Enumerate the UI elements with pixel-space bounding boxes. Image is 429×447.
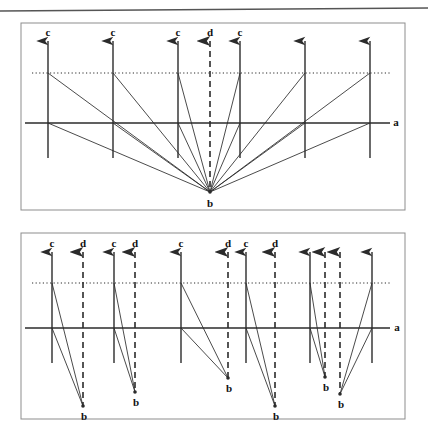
convergence-label-b: b <box>338 398 344 410</box>
vertical-label-d: d <box>225 237 231 249</box>
vertical-label-c: c <box>46 26 51 38</box>
vertical-label-c: c <box>179 237 184 249</box>
vertical-label-c: c <box>238 26 243 38</box>
vertical-label-d: d <box>272 237 278 249</box>
convergence-label-b: b <box>81 410 87 422</box>
ray-line <box>48 73 210 192</box>
convergence-point <box>133 390 137 394</box>
ray-line <box>310 328 325 377</box>
ray-line <box>113 73 210 192</box>
vertical-label-d: d <box>132 237 138 249</box>
convergence-point <box>208 190 212 194</box>
vertical-label-c: c <box>176 26 181 38</box>
ray-line <box>310 283 325 377</box>
page-top-rule <box>0 8 428 11</box>
convergence-label-b: b <box>226 382 232 394</box>
ray-line <box>210 123 370 192</box>
ray-line <box>52 328 83 406</box>
vertical-label-c: c <box>244 237 249 249</box>
vertical-label-c: c <box>111 26 116 38</box>
ray-line <box>246 328 275 406</box>
convergence-point <box>323 375 327 379</box>
vertical-label-d: d <box>207 26 213 38</box>
panel-frame <box>21 23 405 210</box>
diagram-root: acccdcbacdcdcdcdbbbbbb <box>0 0 429 447</box>
ray-line <box>210 73 305 192</box>
convergence-label-b: b <box>273 410 279 422</box>
diagram-canvas: acccdcbacdcdcdcdbbbbbb <box>0 0 429 447</box>
convergence-label-b: b <box>323 381 329 393</box>
convergence-label-b: b <box>133 396 139 408</box>
ray-line <box>113 123 210 192</box>
convergence-label-b: b <box>207 197 213 209</box>
panel-frame <box>21 233 405 419</box>
panel-top: acccdcb <box>21 23 405 210</box>
panel-bottom: acdcdcdcdbbbbbb <box>21 233 405 422</box>
ray-line <box>181 283 228 378</box>
axis-label-a: a <box>394 321 400 333</box>
vertical-label-d: d <box>80 237 86 249</box>
ray-line <box>48 123 210 192</box>
convergence-point <box>338 392 342 396</box>
vertical-label-c: c <box>112 237 117 249</box>
convergence-point <box>273 404 277 408</box>
ray-line <box>181 328 228 378</box>
ray-line <box>52 283 83 406</box>
ray-line <box>210 73 370 192</box>
vertical-label-c: c <box>50 237 55 249</box>
ray-line <box>246 283 275 406</box>
convergence-point <box>226 376 230 380</box>
axis-label-a: a <box>393 116 399 128</box>
convergence-point <box>81 404 85 408</box>
